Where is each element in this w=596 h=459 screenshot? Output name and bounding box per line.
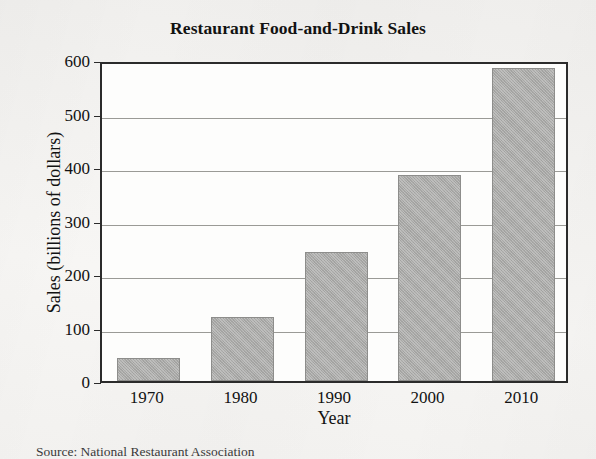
x-axis-tick-label: 1990 bbox=[287, 388, 381, 408]
bar-1980 bbox=[211, 317, 274, 381]
plot-area bbox=[100, 62, 568, 383]
source-note: Source: National Restaurant Association bbox=[36, 444, 255, 459]
x-axis-tick-label: 1970 bbox=[100, 388, 194, 408]
x-axis-tick-labels: 19701980199020002010 bbox=[100, 388, 568, 410]
chart-title: Restaurant Food-and-Drink Sales bbox=[0, 18, 596, 39]
x-axis-title: Year bbox=[100, 408, 568, 429]
x-axis-tick-label: 1980 bbox=[194, 388, 288, 408]
bar-2000 bbox=[398, 175, 461, 381]
bar-series bbox=[102, 64, 566, 381]
y-axis-title: Sales (billions of dollars) bbox=[44, 63, 65, 383]
chart-page: Restaurant Food-and-Drink Sales 01002003… bbox=[0, 0, 596, 459]
x-axis-tick-label: 2010 bbox=[474, 388, 568, 408]
bar-1990 bbox=[305, 252, 368, 381]
bar-2010 bbox=[492, 68, 555, 381]
bar-1970 bbox=[117, 358, 180, 381]
x-axis-tick-label: 2000 bbox=[381, 388, 475, 408]
y-axis-tick-mark bbox=[94, 383, 101, 384]
